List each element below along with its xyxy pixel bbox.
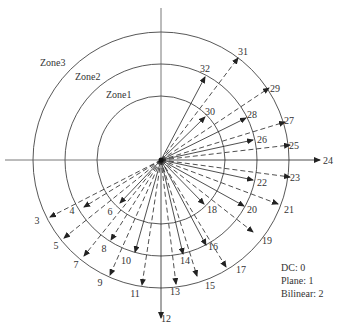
mode-label-18: 18 [207,204,217,215]
mode-label-19: 19 [262,235,272,246]
mode-label-20: 20 [247,204,257,215]
mode-label-4: 4 [70,205,75,216]
mode-label-3: 3 [35,215,40,226]
mode-label-23: 23 [290,172,300,183]
mode-label-17: 17 [236,264,246,275]
mode-label-26: 26 [257,134,267,145]
mode-label-10: 10 [121,255,131,266]
mode-label-5: 5 [54,240,59,251]
mode-label-28: 28 [247,109,257,120]
arrow-mode-23 [161,160,290,177]
zone-label-3: Zone3 [40,57,66,68]
arrow-mode-14 [161,160,183,254]
arrow-mode-3 [50,160,161,217]
mode-label-11: 11 [130,288,140,299]
mode-label-22: 22 [257,177,267,188]
arrow-mode-28 [161,118,246,160]
arrow-mode-5 [64,160,161,238]
mode-label-15: 15 [205,280,215,291]
arrow-mode-19 [161,160,253,232]
origin-dot [159,158,164,163]
arrow-mode-32 [161,77,205,160]
mode-label-9: 9 [98,277,103,288]
arrow-mode-11 [142,160,161,285]
mode-label-12: 12 [161,313,171,324]
legend-dc: DC: 0 [281,261,324,274]
arrow-mode-7 [84,160,161,256]
prediction-direction-arrows [50,58,320,318]
arrow-mode-30 [161,117,205,160]
axes [5,8,161,160]
legend-bilinear: Bilinear: 2 [281,287,324,300]
legend-plane: Plane: 1 [281,274,324,287]
arrow-mode-9 [110,160,161,275]
mode-label-27: 27 [284,115,294,126]
mode-label-6: 6 [108,206,113,217]
zone-label-1: Zone1 [106,89,132,100]
mode-label-13: 13 [170,286,180,297]
mode-label-30: 30 [205,106,215,117]
mode-label-14: 14 [180,255,190,266]
zone-label-2: Zone2 [75,71,101,82]
mode-label-16: 16 [208,241,218,252]
arrow-mode-26 [161,140,253,160]
mode-legend: DC: 0 Plane: 1 Bilinear: 2 [281,261,324,300]
mode-label-7: 7 [74,259,79,270]
mode-label-24: 24 [323,155,333,166]
mode-label-32: 32 [200,63,210,74]
arrow-mode-8 [111,160,161,240]
arrow-mode-18 [161,160,204,204]
arrow-mode-25 [161,145,290,160]
arrow-mode-13 [161,160,176,284]
mode-label-21: 21 [284,204,294,215]
mode-label-8: 8 [102,243,107,254]
mode-label-29: 29 [270,83,280,94]
mode-label-25: 25 [289,140,299,151]
mode-label-31: 31 [238,46,248,57]
